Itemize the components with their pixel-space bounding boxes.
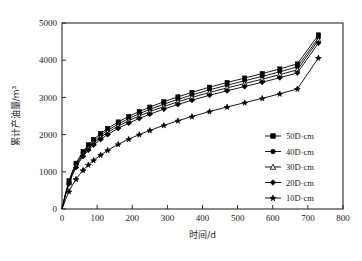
y-tick-label: 5000 bbox=[39, 18, 58, 28]
x-tick-label: 600 bbox=[266, 213, 280, 223]
y-axis-title: 累计产油量/m³ bbox=[10, 85, 21, 146]
x-axis-tick-labels: 0100200300400500600700800 bbox=[60, 213, 351, 223]
legend-label: 20D·cm bbox=[286, 178, 314, 188]
x-tick-label: 500 bbox=[231, 213, 245, 223]
cumulative-oil-production-line-chart: 0100200300400500600700800 01000200030004… bbox=[0, 0, 362, 261]
legend-label: 50D·cm bbox=[286, 131, 314, 141]
y-tick-label: 3000 bbox=[39, 93, 58, 103]
x-tick-label: 700 bbox=[301, 213, 315, 223]
y-tick-label: 1000 bbox=[39, 167, 58, 177]
y-tick-label: 2000 bbox=[39, 130, 58, 140]
y-tick-label: 0 bbox=[53, 204, 58, 214]
x-tick-label: 100 bbox=[90, 213, 104, 223]
y-tick-label: 4000 bbox=[39, 55, 58, 65]
x-tick-label: 0 bbox=[60, 213, 65, 223]
x-tick-label: 200 bbox=[126, 213, 140, 223]
legend-label: 30D·cm bbox=[286, 162, 314, 172]
x-tick-label: 300 bbox=[161, 213, 175, 223]
legend-label: 10D·cm bbox=[286, 193, 314, 203]
chart-figure: 0100200300400500600700800 01000200030004… bbox=[0, 0, 362, 261]
x-tick-label: 400 bbox=[196, 213, 210, 223]
x-axis-title: 时间/d bbox=[189, 229, 216, 240]
x-tick-label: 800 bbox=[336, 213, 350, 223]
data-point-marker bbox=[271, 134, 276, 139]
data-point-marker bbox=[271, 149, 276, 154]
legend-label: 40D·cm bbox=[286, 147, 314, 157]
